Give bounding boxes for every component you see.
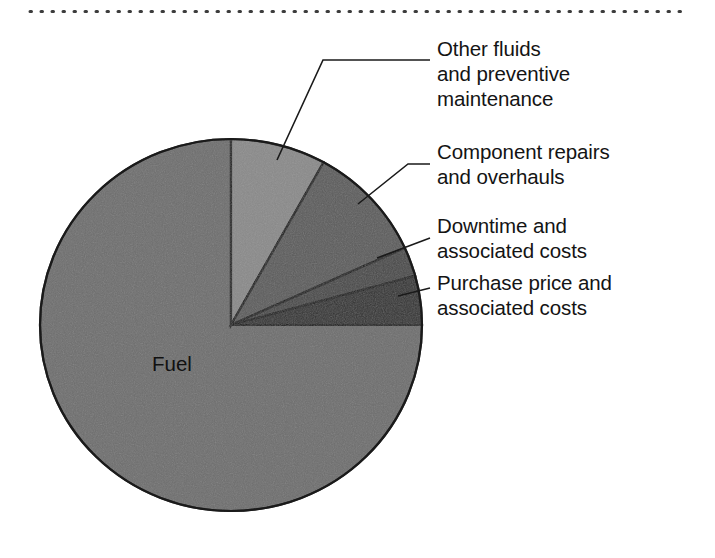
pie-slices [40,139,422,511]
leader-line-other-fluids [277,60,430,160]
callout-label-purchase-price: Purchase price and associated costs [437,270,612,320]
pie-chart-figure: Other fluids and preventive maintenance … [0,0,715,558]
pie-slice-label-fuel: Fuel [152,352,192,376]
callout-label-component-repairs: Component repairs and overhauls [437,139,610,189]
callout-label-other-fluids: Other fluids and preventive maintenance [437,36,570,111]
callout-label-downtime: Downtime and associated costs [437,213,587,263]
